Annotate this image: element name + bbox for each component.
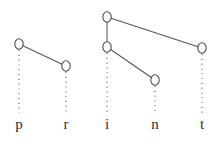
- segment-label-t: t: [192, 117, 212, 132]
- node-circle-icon: [151, 75, 159, 85]
- node-circle-icon: [103, 42, 111, 52]
- segment-label-n: n: [145, 117, 165, 132]
- association-line: [23, 46, 62, 64]
- node-group: [15, 12, 206, 85]
- segment-label-i: i: [97, 117, 117, 132]
- association-line: [111, 50, 152, 78]
- segment-label-r: r: [56, 117, 76, 132]
- segment-label-p: p: [9, 117, 29, 132]
- node-circle-icon: [103, 12, 111, 22]
- node-circle-icon: [15, 39, 23, 49]
- dotted-link-group: [19, 50, 202, 113]
- node-circle-icon: [198, 43, 206, 53]
- association-line: [111, 18, 198, 46]
- node-circle-icon: [62, 61, 70, 71]
- diagram-canvas: print: [0, 0, 215, 144]
